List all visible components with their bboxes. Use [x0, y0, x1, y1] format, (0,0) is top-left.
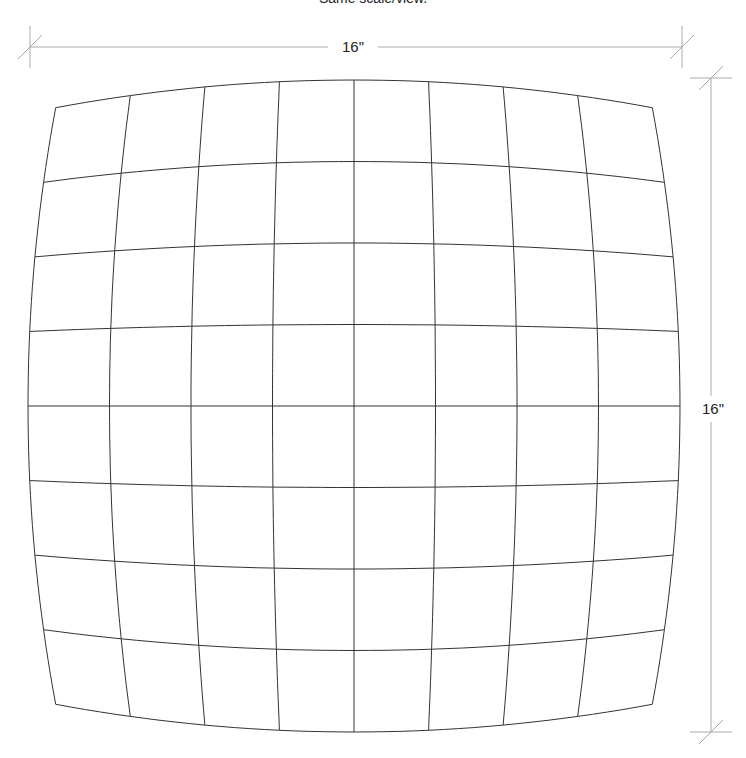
pincushion-grid	[28, 80, 680, 732]
distorted-grid-diagram	[0, 0, 746, 758]
width-dimension-label: 16"	[328, 38, 378, 56]
height-dimension-label: 16"	[700, 396, 726, 422]
